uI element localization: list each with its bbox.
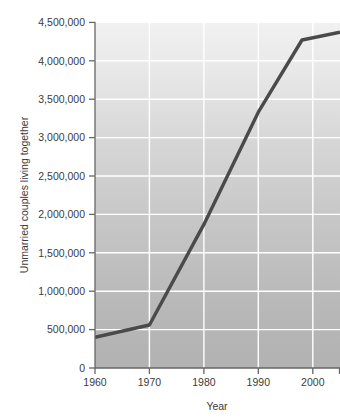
line-chart-figure: 0 500,000 1,000,000 1,500,000 2,000,000 … <box>0 0 340 418</box>
y-axis-title: Unmarried couples living together <box>18 116 30 273</box>
x-tick-label-2000: 2000 <box>301 376 325 388</box>
x-axis-ticks <box>95 368 340 374</box>
x-tick-label-1980: 1980 <box>192 376 216 388</box>
y-tick-label-500000: 500,000 <box>47 323 85 335</box>
x-tick-label-1960: 1960 <box>83 376 107 388</box>
y-axis-ticks <box>89 22 95 368</box>
y-tick-label-4500000: 4,500,000 <box>38 16 85 28</box>
y-tick-label-2000000: 2,000,000 <box>38 208 85 220</box>
y-tick-label-3500000: 3,500,000 <box>38 93 85 105</box>
x-tick-label-1970: 1970 <box>138 376 162 388</box>
y-tick-label-2500000: 2,500,000 <box>38 170 85 182</box>
x-tick-label-1990: 1990 <box>247 376 271 388</box>
y-tick-label-1000000: 1,000,000 <box>38 285 85 297</box>
y-tick-label-1500000: 1,500,000 <box>38 247 85 259</box>
y-tick-label-4000000: 4,000,000 <box>38 55 85 67</box>
x-axis-title: Year <box>206 400 228 412</box>
y-tick-label-0: 0 <box>79 362 85 374</box>
chart-canvas: 0 500,000 1,000,000 1,500,000 2,000,000 … <box>0 0 340 418</box>
y-tick-label-3000000: 3,000,000 <box>38 131 85 143</box>
